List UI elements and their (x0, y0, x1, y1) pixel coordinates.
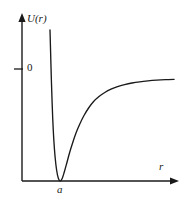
x-axis-label: r (159, 161, 163, 172)
horizontal-axis-arrow-icon (170, 177, 179, 184)
plot-canvas (0, 0, 188, 207)
potential-energy-curve (50, 30, 174, 181)
y-axis-label: U(r) (27, 13, 47, 24)
vertical-axis-arrow-icon (18, 13, 25, 22)
potential-energy-figure: U(r) r 0 a (0, 0, 188, 207)
x-axis-equilibrium-label: a (57, 184, 63, 195)
y-axis-zero-label: 0 (27, 62, 33, 73)
